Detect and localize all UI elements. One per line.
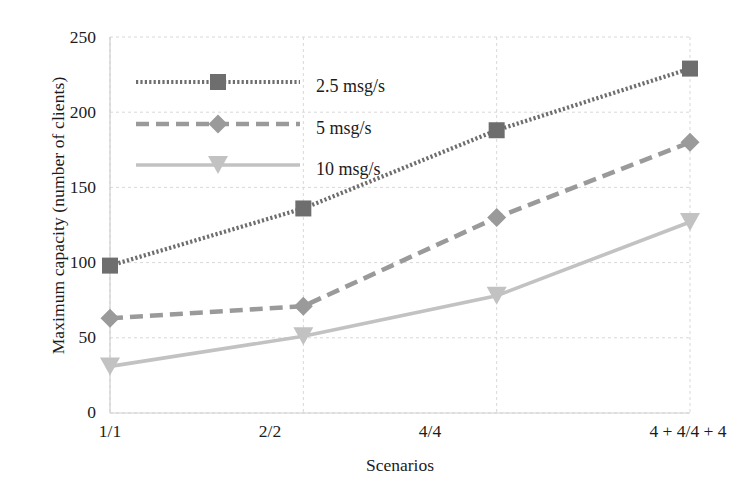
legend-label-2: 5 msg/s <box>316 119 372 137</box>
marker-square <box>102 258 118 274</box>
y-axis-title: Maximum capacity (number of clients) <box>48 16 69 416</box>
series-line <box>110 69 690 266</box>
marker-diamond <box>681 133 700 152</box>
x-tick-label-1: 1/1 <box>80 421 140 442</box>
y-tick-label-100: 100 <box>26 254 96 272</box>
series-line <box>110 142 690 318</box>
y-tick-label-50: 50 <box>26 329 96 347</box>
marker-square <box>295 200 311 216</box>
chart-figure: Maximum capacity (number of clients) Sce… <box>0 0 741 499</box>
legend-markers <box>136 74 300 174</box>
y-tick-label-0: 0 <box>26 404 96 422</box>
marker-diamond <box>487 208 506 227</box>
series-line <box>110 222 690 366</box>
x-tick-label-4: 4 + 4/4 + 4 <box>613 421 741 442</box>
x-tick-label-2: 2/2 <box>240 421 300 442</box>
y-tick-label-150: 150 <box>26 179 96 197</box>
marker-diamond <box>209 115 228 134</box>
marker-diamond <box>101 309 120 328</box>
marker-diamond <box>294 297 313 316</box>
marker-square <box>682 61 698 77</box>
marker-square <box>210 74 226 90</box>
marker-triangle-down <box>680 213 700 231</box>
y-tick-label-200: 200 <box>26 104 96 122</box>
plot-frame <box>110 37 690 413</box>
legend-label-3: 10 msg/s <box>316 160 381 178</box>
series-layer <box>100 61 700 376</box>
series-1 <box>102 61 698 274</box>
series-3 <box>100 213 700 375</box>
marker-square <box>489 122 505 138</box>
x-tick-label-3: 4/4 <box>400 421 460 442</box>
series-2 <box>101 133 700 328</box>
y-tick-label-250: 250 <box>26 29 96 47</box>
gridlines <box>110 37 690 413</box>
x-axis-title: Scenarios <box>110 455 690 476</box>
legend-label-1: 2.5 msg/s <box>316 77 385 95</box>
